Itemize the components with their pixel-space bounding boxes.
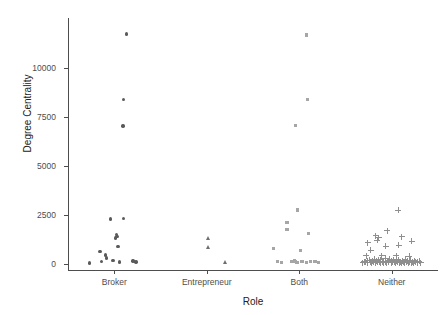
- data-point-neither: [399, 234, 405, 240]
- data-point-both: [295, 261, 298, 264]
- data-point-both: [317, 261, 320, 264]
- data-point-broker: [122, 98, 125, 101]
- x-axis-title: Role: [68, 296, 438, 307]
- data-point-neither: [383, 243, 389, 249]
- data-point-entrepreneur: [206, 245, 210, 249]
- data-point-neither: [384, 228, 390, 234]
- data-point-broker: [98, 250, 101, 253]
- data-point-broker: [134, 260, 137, 263]
- y-axis-line: [68, 18, 69, 270]
- x-tick-mark: [299, 270, 300, 274]
- data-point-broker: [88, 261, 91, 264]
- y-tick-label: 7500: [16, 113, 56, 121]
- data-point-neither: [363, 253, 369, 259]
- scatter-plot: Degree Centrality 025005000750010000 Bro…: [0, 0, 446, 315]
- data-point-broker: [122, 217, 125, 220]
- x-tick-label-both: Both: [254, 277, 344, 287]
- x-tick-mark: [392, 270, 393, 274]
- data-point-both: [307, 232, 310, 235]
- x-tick-mark: [207, 270, 208, 274]
- data-point-both: [309, 260, 312, 263]
- data-point-neither: [365, 240, 371, 246]
- data-point-neither: [368, 247, 374, 253]
- data-point-both: [296, 208, 299, 211]
- data-point-neither: [396, 242, 402, 248]
- data-point-both: [294, 124, 297, 127]
- data-point-broker: [116, 245, 119, 248]
- data-point-entrepreneur: [206, 236, 210, 240]
- x-tick-label-neither: Neither: [347, 277, 437, 287]
- y-tick-label: 5000: [16, 162, 56, 170]
- data-point-neither: [379, 253, 385, 259]
- data-point-neither: [395, 207, 401, 213]
- data-point-neither: [409, 238, 415, 244]
- data-point-broker: [105, 256, 108, 259]
- data-point-neither: [393, 253, 399, 259]
- x-tick-label-entrepreneur: Entrepreneur: [162, 277, 252, 287]
- data-point-broker: [111, 259, 114, 262]
- data-point-both: [299, 249, 302, 252]
- data-point-broker: [125, 32, 128, 35]
- data-point-neither: [418, 260, 424, 266]
- data-point-broker: [115, 235, 118, 238]
- data-point-both: [285, 221, 288, 224]
- data-point-broker: [118, 260, 121, 263]
- y-tick-label: 2500: [16, 211, 56, 219]
- data-point-both: [305, 261, 308, 264]
- y-tick-label: 0: [16, 260, 56, 268]
- x-tick-label-broker: Broker: [69, 277, 159, 287]
- data-point-both: [305, 33, 308, 36]
- data-point-entrepreneur: [223, 260, 227, 264]
- data-point-both: [276, 260, 279, 263]
- data-point-broker: [109, 217, 112, 220]
- y-tick-mark: [64, 117, 68, 118]
- data-point-both: [272, 247, 275, 250]
- y-tick-label: 10000: [16, 64, 56, 72]
- data-point-both: [285, 228, 288, 231]
- data-point-broker: [100, 260, 103, 263]
- x-tick-mark: [114, 270, 115, 274]
- y-tick-mark: [64, 166, 68, 167]
- data-point-neither: [406, 253, 412, 259]
- y-tick-mark: [64, 264, 68, 265]
- data-point-both: [300, 260, 303, 263]
- data-point-both: [280, 261, 283, 264]
- data-point-neither: [376, 235, 382, 241]
- y-tick-mark: [64, 68, 68, 69]
- data-point-broker: [121, 124, 124, 127]
- data-point-both: [306, 98, 309, 101]
- y-tick-mark: [64, 215, 68, 216]
- x-axis-line: [68, 270, 438, 271]
